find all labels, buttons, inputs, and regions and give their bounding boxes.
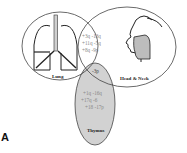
thymus-label: Thymus	[87, 128, 105, 133]
region-text: +1q -16q	[83, 90, 102, 96]
head-neck-label: Head & Neck	[120, 76, 149, 81]
region-text: -3p	[92, 68, 99, 74]
venn-diagram: Lung Head & Neck Thymus +3q -13q +11q -5…	[0, 0, 187, 153]
region-text: +3q -13q	[82, 33, 101, 39]
region-text: +11q -5q	[82, 40, 101, 46]
region-text: +8q -9p	[82, 47, 99, 53]
region-text: +17q -6	[81, 97, 98, 103]
panel-label: A	[1, 131, 9, 143]
lungs-icon	[34, 15, 77, 70]
region-text: +18 -17p	[85, 104, 104, 110]
head-profile-icon	[126, 16, 162, 62]
lung-label: Lung	[52, 74, 64, 79]
